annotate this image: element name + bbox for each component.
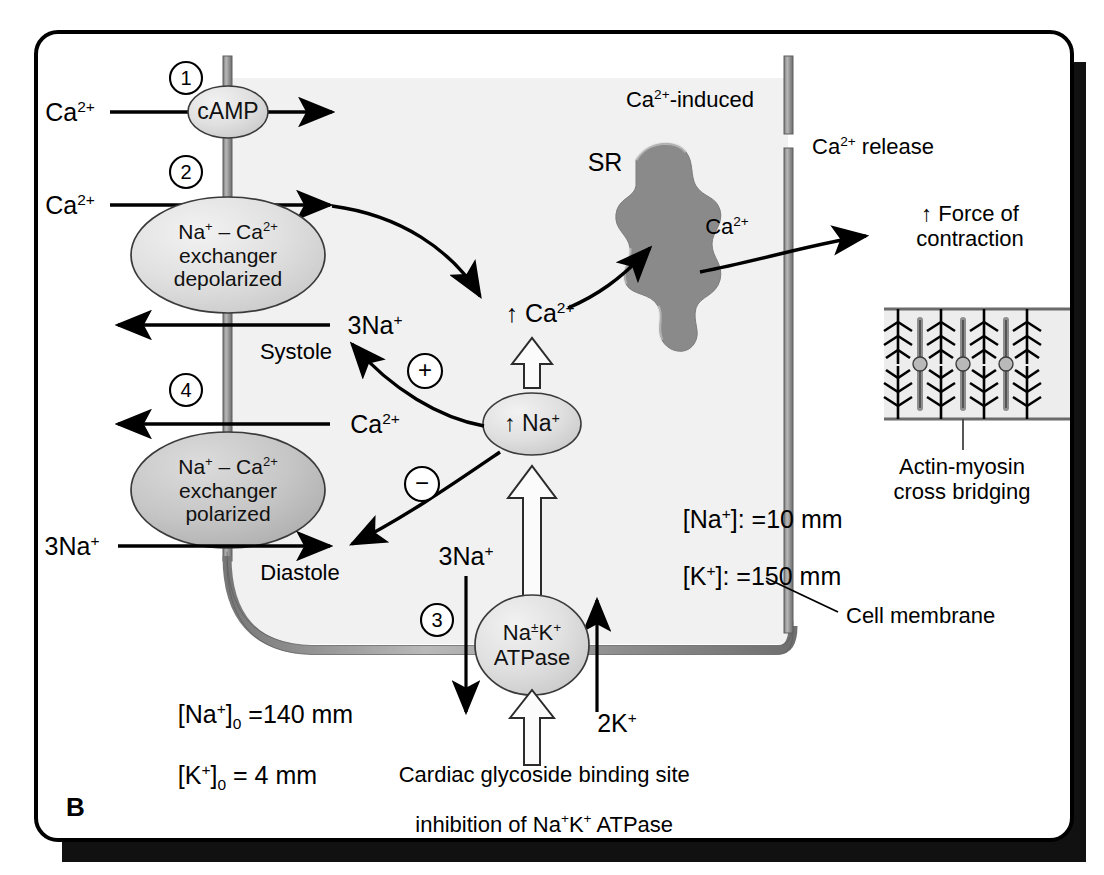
- intracellular-concentrations: [Na+]: =10 mm [K+]: =150 mm: [655, 477, 843, 618]
- conc-na-in: [Na+]: =10 mm: [683, 505, 843, 533]
- conc-k-out: [K+]0 = 4 mm: [178, 761, 317, 789]
- minus-sign-label: −: [415, 470, 429, 497]
- force-of-contraction-label: ↑ Force ofcontraction: [916, 202, 1024, 251]
- conc-na-out: [Na+]0 =140 mm: [178, 700, 353, 728]
- step-badge-2-label: 2: [180, 161, 191, 183]
- exchanger-polarized-label: Na+ – Ca2+exchangerpolarized: [178, 455, 278, 526]
- step-badge-1-label: 1: [180, 67, 191, 89]
- na-efflux-systole-label: 3Na+: [348, 311, 403, 339]
- panel-letter: B: [66, 793, 85, 822]
- cell-membrane-label: Cell membrane: [846, 604, 995, 629]
- systole-label: Systole: [260, 340, 332, 365]
- sr-label: SR: [588, 148, 623, 176]
- glycoside-caption-line2: inhibition of Na+K+ ATPase: [415, 812, 673, 837]
- figure-panel: 1 2 3 4 + − cAMP Ca2+ Ca2+ Na+ – Ca2+exc…: [0, 0, 1104, 875]
- ca-induced-label: Ca2+-induced: [626, 87, 754, 113]
- exchanger-depolarized-label: Na+ – Ca2+exchangerdepolarized: [174, 220, 283, 291]
- glycoside-caption: Cardiac glycoside binding site inhibitio…: [374, 738, 690, 862]
- ca-efflux-4-label: Ca2+: [350, 410, 400, 438]
- na-increase-label: ↑ Na+: [504, 411, 560, 437]
- diastole-label: Diastole: [260, 561, 339, 586]
- na-influx-diastole-label: 3Na+: [45, 532, 100, 560]
- conc-k-in: [K+]: =150 mm: [683, 562, 841, 590]
- ca-increase-label: ↑ Ca2+: [505, 299, 574, 327]
- ca-influx-1-label: Ca2+: [45, 98, 95, 126]
- na-k-atpase-label: Na±K+ATPase: [494, 620, 571, 671]
- ca-influx-2-label: Ca2+: [45, 191, 95, 219]
- membrane-right-upper: [784, 56, 793, 134]
- ca-to-force-label: Ca2+: [705, 214, 749, 240]
- ca-release-label: Ca2+ release: [812, 134, 934, 160]
- step-badge-4-label: 4: [180, 379, 191, 401]
- step-badge-3-label: 3: [431, 609, 442, 631]
- k-pump-in-label: 2K+: [597, 709, 637, 737]
- camp-node-label: cAMP: [197, 99, 258, 125]
- na-pump-out-label: 3Na+: [439, 542, 494, 570]
- actin-myosin-label: Actin-myosincross bridging: [894, 455, 1031, 504]
- extracellular-concentrations: [Na+]0 =140 mm [K+]0 = 4 mm: [150, 672, 353, 821]
- plus-sign-label: +: [418, 357, 432, 384]
